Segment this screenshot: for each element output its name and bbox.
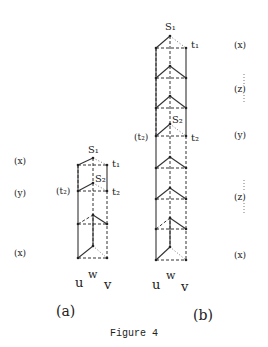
- panel-a-side-label-y: (y): [14, 188, 26, 198]
- panel-b-prism-stack: [155, 35, 188, 262]
- panel-b-side-label-y: (y): [234, 130, 246, 140]
- panel-a-t2-left-label: (t₂): [56, 186, 70, 196]
- panel-a-label: (a): [56, 303, 75, 319]
- panel-b-side-label-x-bottom: (x): [234, 250, 246, 260]
- panel-a-t2-right-label: t₂: [112, 186, 120, 197]
- panel-b-t1-label: t₁: [191, 39, 199, 50]
- panel-a-w-label: w: [88, 268, 98, 281]
- panel-a-side-label-x-top: (x): [14, 156, 26, 166]
- panel-b-s1-label: S₁: [165, 21, 176, 32]
- panel-b-t2-right-label: t₂: [191, 132, 199, 143]
- panel-a-s2-label: S₂: [95, 173, 106, 184]
- panel-b-label: (b): [193, 307, 213, 323]
- panel-b-u-label: u: [152, 277, 160, 292]
- panel-a-s1-label: S₁: [88, 144, 99, 155]
- panel-b-v-label: v: [180, 279, 189, 294]
- panel-b-s2-label: S₂: [172, 114, 183, 125]
- panel-a-v-label: v: [103, 277, 112, 292]
- panel-b-side-label-z-top: (z): [234, 84, 246, 94]
- panel-b-side-label-x-top: (x): [234, 40, 246, 50]
- panel-a-side-label-x-bottom: (x): [14, 248, 26, 258]
- figure-4-diagram: S₁ t₁ S₂ (t₂) t₂ u w v (x) (y) (x) (a): [0, 0, 268, 347]
- figure-caption: Figure 4: [110, 328, 158, 339]
- panel-b-side-label-z-bottom: (z): [234, 192, 246, 202]
- panel-a-t1-label: t₁: [112, 158, 120, 169]
- panel-b-t2-left-label: (t₂): [134, 132, 148, 142]
- panel-b-w-label: w: [166, 269, 176, 282]
- panel-a-u-label: u: [75, 275, 83, 290]
